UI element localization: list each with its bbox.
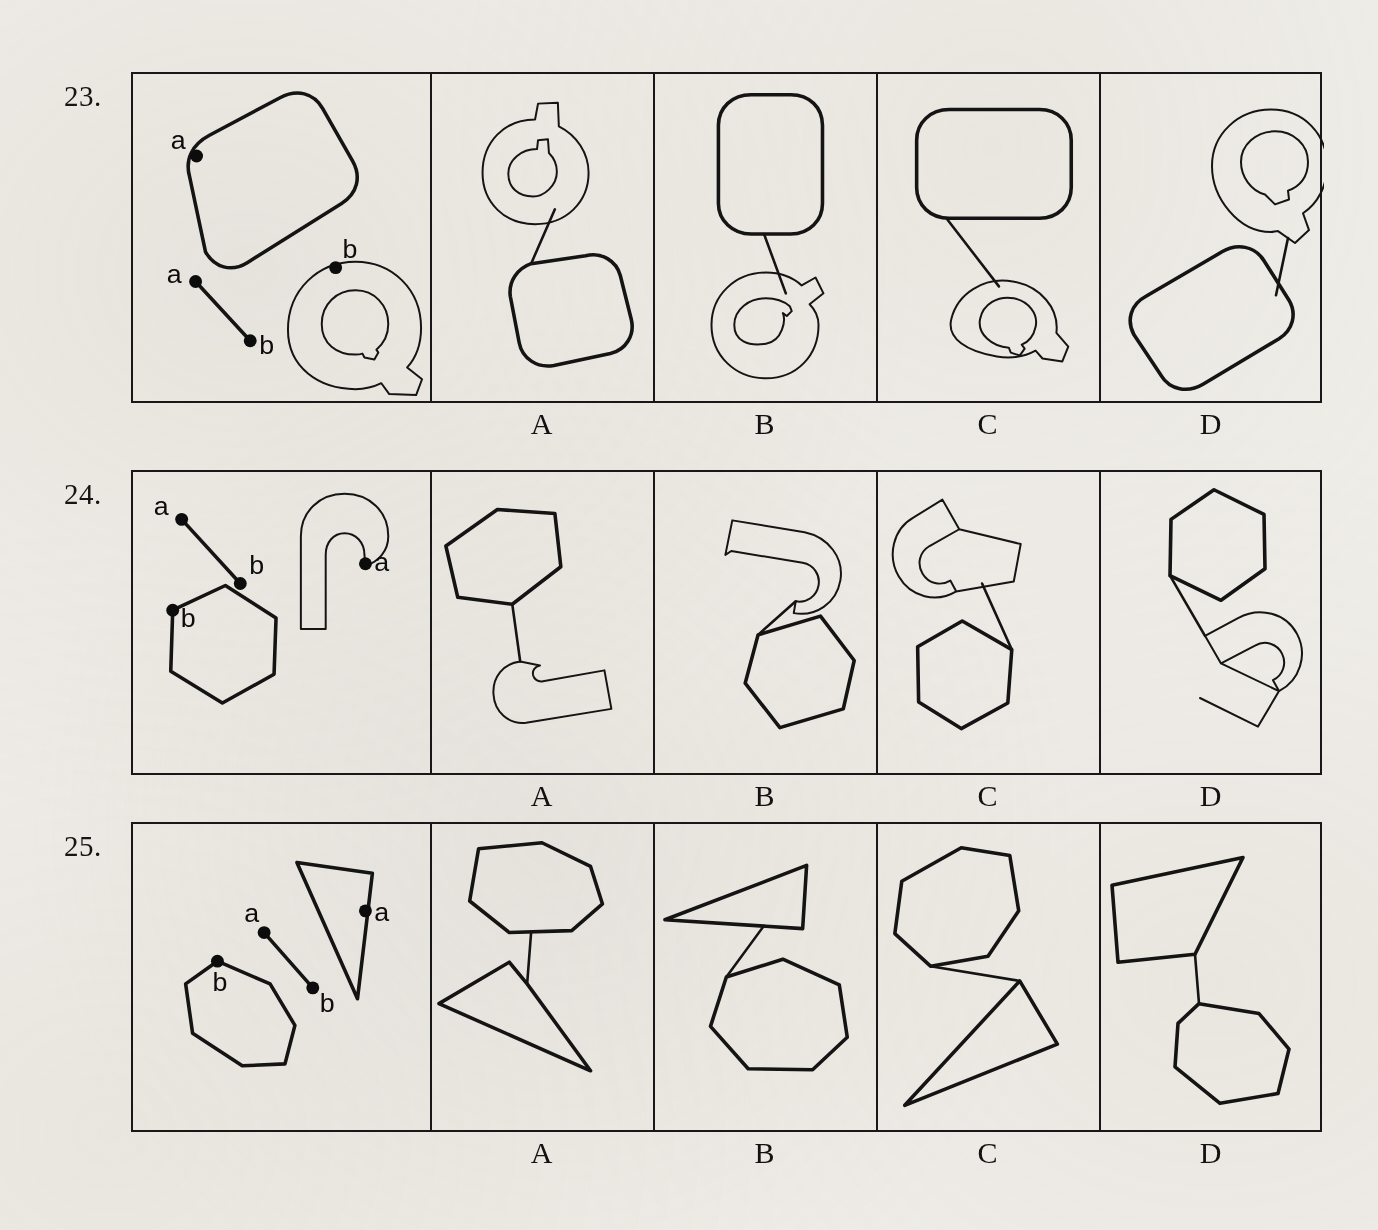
option-label-23-b: B: [653, 409, 876, 439]
option-panel-24-b[interactable]: [655, 472, 878, 773]
option-labels-23: A B C D: [131, 409, 1322, 439]
point-a-label-shape: a: [374, 547, 389, 577]
option-label-23-a: A: [430, 409, 653, 439]
option-label-25-b: B: [653, 1138, 876, 1168]
question-row-25: 25. a b a b: [131, 822, 1322, 1132]
connector-point-a-label: a: [167, 260, 182, 290]
question-row-24: 24. a b b a: [131, 470, 1322, 775]
option-label-24-a: A: [430, 781, 653, 811]
point-a-label-shape: a: [374, 897, 389, 927]
stimulus-panel-25: a b a b: [133, 824, 432, 1130]
option-label-24-c: C: [876, 781, 1099, 811]
connector-point-b-dot: [244, 334, 257, 347]
option-panel-25-d[interactable]: [1101, 824, 1324, 1130]
panel-grid-25: a b a b: [131, 822, 1322, 1132]
row-number-23: 23.: [64, 82, 102, 111]
option-panel-23-c[interactable]: [878, 74, 1101, 401]
question-row-23: 23. a b: [131, 72, 1322, 403]
option-panel-24-d[interactable]: [1101, 472, 1324, 773]
option-panel-24-c[interactable]: [878, 472, 1101, 773]
option-label-24-b: B: [653, 781, 876, 811]
option-label-25-c: C: [876, 1138, 1099, 1168]
option-label-23-c: C: [876, 409, 1099, 439]
option-panel-25-b[interactable]: [655, 824, 878, 1130]
point-a-dot-shape: [359, 904, 372, 917]
point-b-label-shape: b: [212, 967, 227, 997]
option-panel-23-a[interactable]: [432, 74, 655, 401]
connector-point-a-label: a: [244, 898, 259, 928]
option-panel-24-a[interactable]: [432, 472, 655, 773]
option-labels-24: A B C D: [131, 781, 1322, 811]
point-b-dot-shape: [211, 955, 224, 968]
connector-point-b-label: b: [249, 550, 264, 580]
option-panel-23-b[interactable]: [655, 74, 878, 401]
option-panel-25-c[interactable]: [878, 824, 1101, 1130]
option-panel-23-d[interactable]: [1101, 74, 1324, 401]
panel-grid-23: a b a b: [131, 72, 1322, 403]
point-b-dot-shape: [166, 604, 179, 617]
point-b-label-shape: b: [343, 234, 358, 264]
connector-point-b-dot: [234, 577, 247, 590]
row-number-24: 24.: [64, 480, 102, 509]
point-a-dot-shape: [190, 150, 203, 163]
connector-segment: [196, 281, 251, 340]
connector-point-b-dot: [306, 981, 319, 994]
point-b-label-shape: b: [181, 603, 196, 633]
stimulus-panel-24: a b b a: [133, 472, 432, 773]
option-label-24-d: D: [1099, 781, 1322, 811]
row-number-25: 25.: [64, 832, 102, 861]
option-labels-25: A B C D: [131, 1138, 1322, 1168]
connector-point-a-dot: [258, 926, 271, 939]
option-label-25-a: A: [430, 1138, 653, 1168]
option-panel-25-a[interactable]: [432, 824, 655, 1130]
connector-point-b-label: b: [259, 330, 274, 360]
option-label-23-d: D: [1099, 409, 1322, 439]
stimulus-panel-23: a b a b: [133, 74, 432, 401]
connector-point-a-label: a: [154, 492, 169, 522]
connector-point-a-dot: [175, 513, 188, 526]
panel-grid-24: a b b a: [131, 470, 1322, 775]
point-a-dot-shape: [359, 557, 372, 570]
test-page: 23. a b: [0, 0, 1378, 1230]
connector-point-a-dot: [189, 275, 202, 288]
connector-point-b-label: b: [320, 988, 335, 1018]
point-a-label-shape: a: [171, 125, 186, 155]
option-label-25-d: D: [1099, 1138, 1322, 1168]
point-b-dot-shape: [329, 261, 342, 274]
